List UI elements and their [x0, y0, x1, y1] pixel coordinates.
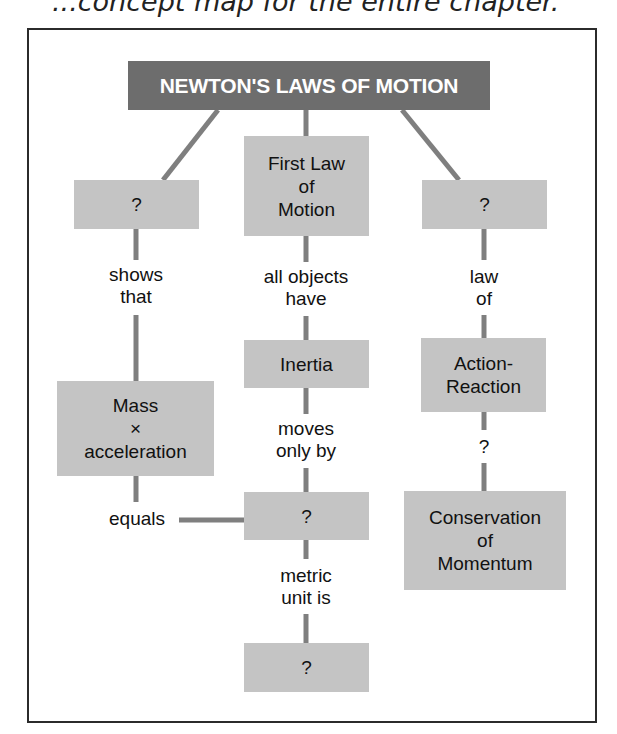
node-mass-acceleration: Mass × acceleration	[57, 381, 214, 476]
link-moves-only-by: moves only by	[246, 418, 366, 462]
link-metric-unit-is: metric unit is	[246, 565, 366, 609]
title-node: NEWTON'S LAWS OF MOTION	[128, 61, 490, 110]
node-left-unknown: ?	[74, 180, 199, 229]
link-all-objects-have: all objects have	[246, 266, 366, 310]
link-law-of: law of	[444, 266, 524, 310]
node-action-reaction: Action- Reaction	[421, 338, 546, 412]
node-right-unknown: ?	[422, 180, 547, 229]
node-first-law: First Law of Motion	[244, 136, 369, 236]
link-shows-that: shows that	[86, 264, 186, 308]
node-force-unknown: ?	[244, 492, 369, 540]
node-conservation-momentum: Conservation of Momentum	[404, 491, 566, 590]
node-unit-unknown: ?	[244, 643, 369, 692]
node-inertia: Inertia	[244, 340, 369, 388]
link-equals: equals	[96, 508, 178, 530]
link-unknown: ?	[464, 436, 504, 458]
